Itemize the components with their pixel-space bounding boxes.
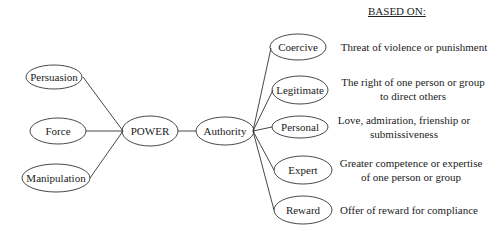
desc-personal: Love, admiration, frienship or submissiv… [338, 113, 470, 141]
desc-line: to direct others [341, 89, 485, 103]
desc-reward: Offer of reward for compliance [340, 203, 478, 217]
node-force: Force [45, 125, 70, 137]
node-authority: Authority [204, 125, 247, 137]
node-expert: Expert [288, 164, 317, 176]
desc-line: of one person or group [340, 170, 483, 184]
node-coercive: Coercive [278, 41, 318, 53]
desc-line: submissiveness [338, 127, 470, 141]
node-reward: Reward [286, 204, 320, 216]
desc-line: The right of one person or group [341, 75, 485, 89]
desc-legitimate: The right of one person or group to dire… [341, 75, 485, 103]
node-manipulation: Manipulation [26, 172, 85, 184]
node-power: POWER [131, 125, 170, 137]
based-on-header: BASED ON: [368, 5, 426, 17]
node-persuasion: Persuasion [30, 71, 78, 83]
desc-expert: Greater competence or expertise of one p… [340, 156, 483, 184]
node-legitimate: Legitimate [276, 84, 324, 96]
desc-line: Threat of violence or punishment [341, 40, 488, 54]
desc-line: Greater competence or expertise [340, 156, 483, 170]
desc-line: Love, admiration, frienship or [338, 113, 470, 127]
desc-line: Offer of reward for compliance [340, 203, 478, 217]
node-personal: Personal [281, 121, 319, 133]
desc-coercive: Threat of violence or punishment [341, 40, 488, 54]
